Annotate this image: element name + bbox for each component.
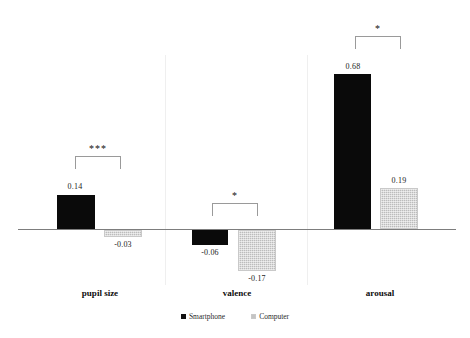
value-label-arousal-smartphone: 0.68: [333, 62, 373, 71]
zero-axis-line: [18, 229, 456, 230]
bar-arousal-smartphone: [334, 74, 371, 229]
significance-bracket-valence: [212, 203, 258, 216]
bar-pupil-smartphone: [57, 195, 95, 229]
legend-label-smartphone: Smartphone: [189, 312, 225, 321]
panel-separator-2: [307, 55, 308, 285]
value-label-valence-smartphone: -0.06: [190, 248, 230, 257]
computer-swatch-icon: [251, 314, 256, 319]
significance-star-valence: *: [212, 190, 258, 201]
legend-item-computer: Computer: [251, 312, 289, 321]
bar-chart-figure: *** 0.14 -0.03 pupil size * -0.06 -0.17 …: [0, 0, 470, 338]
panel-separator-1: [165, 55, 166, 285]
chart-legend: Smartphone Computer: [0, 312, 470, 321]
legend-item-smartphone: Smartphone: [181, 312, 225, 321]
value-label-arousal-computer: 0.19: [379, 176, 419, 185]
bar-arousal-computer: [380, 188, 418, 229]
legend-label-computer: Computer: [259, 312, 289, 321]
value-label-pupil-smartphone: 0.14: [55, 182, 95, 191]
plot-area: *** 0.14 -0.03 pupil size * -0.06 -0.17 …: [0, 0, 470, 300]
bar-pupil-computer: [104, 230, 142, 237]
bar-valence-smartphone: [192, 230, 228, 245]
smartphone-swatch-icon: [181, 314, 186, 319]
category-label-pupil-size: pupil size: [50, 288, 150, 298]
significance-bracket-arousal: [355, 36, 401, 49]
value-label-valence-computer: -0.17: [237, 274, 277, 283]
value-label-pupil-computer: -0.03: [103, 240, 143, 249]
significance-star-arousal: *: [355, 23, 401, 34]
significance-bracket-pupil-size: [75, 156, 121, 169]
category-label-arousal: arousal: [330, 288, 430, 298]
category-label-valence: valence: [187, 288, 287, 298]
significance-star-pupil-size: ***: [75, 143, 121, 154]
bar-valence-computer: [238, 230, 276, 271]
